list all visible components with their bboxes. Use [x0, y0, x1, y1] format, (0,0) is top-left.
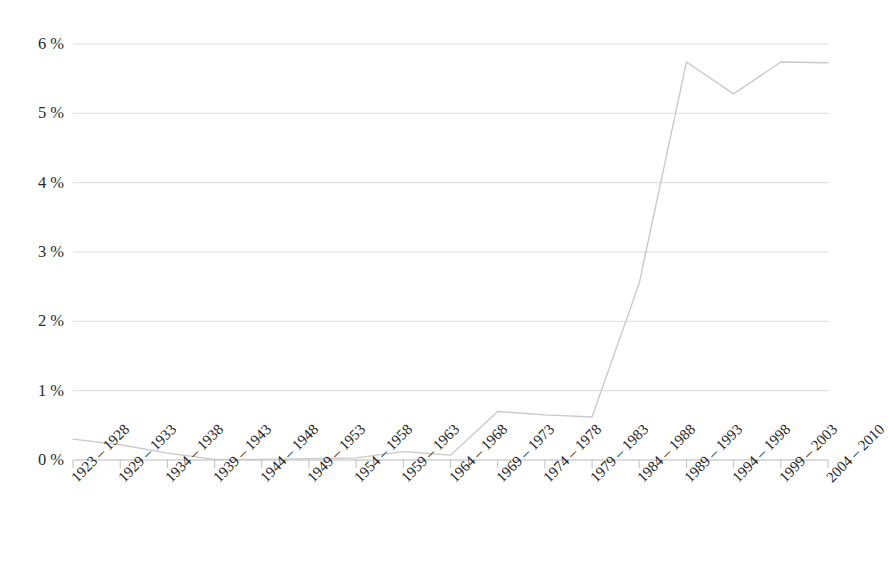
- x-axis-labels: 1923 – 19281929 – 19331934 – 19381939 – …: [0, 0, 867, 575]
- line-chart: 0 %1 %2 %3 %4 %5 %6 % 1923 – 19281929 – …: [0, 0, 867, 575]
